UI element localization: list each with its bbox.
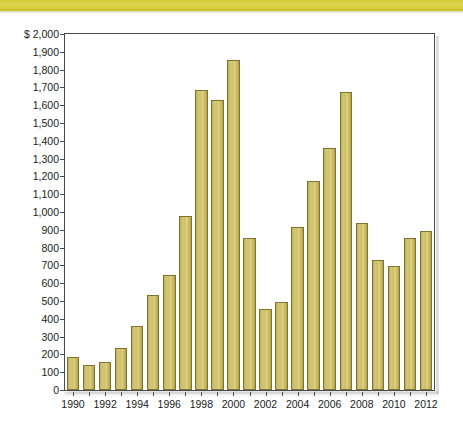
y-axis-tick-mark	[60, 248, 64, 249]
x-axis-tick-label: 2008	[350, 398, 373, 410]
bar	[340, 92, 353, 390]
y-axis-tick-label: 800	[41, 243, 59, 253]
x-axis-tick-mark	[250, 392, 251, 396]
x-axis-tick-label: 2012	[414, 398, 437, 410]
y-axis-labels: $ 2,0001,9001,8001,7001,6001,5001,4001,3…	[0, 14, 59, 414]
bar	[275, 302, 288, 390]
bar	[83, 365, 96, 390]
bar	[307, 181, 320, 390]
x-axis-tick-mark	[217, 392, 218, 396]
bar	[372, 260, 385, 390]
y-axis-tick-mark	[60, 34, 64, 35]
bar	[404, 238, 417, 390]
y-axis-tick-mark	[60, 301, 64, 302]
bar-chart: $ 2,0001,9001,8001,7001,6001,5001,4001,3…	[0, 14, 463, 439]
bar	[115, 348, 128, 390]
x-axis-tick-label: 1992	[93, 398, 116, 410]
y-axis-tick-label: 1,700	[33, 82, 59, 92]
bar	[243, 238, 256, 390]
x-axis-tick-mark	[89, 392, 90, 396]
x-axis-tick-label: 2004	[286, 398, 309, 410]
x-axis-tick-mark	[410, 392, 411, 396]
x-axis-tick-mark	[185, 392, 186, 396]
x-axis-tick-mark	[73, 392, 74, 396]
y-axis-tick-label: 1,400	[33, 136, 59, 146]
bar	[179, 216, 192, 390]
bar	[99, 362, 112, 390]
x-axis-tick-mark	[121, 392, 122, 396]
x-axis-tick-mark	[282, 392, 283, 396]
bar	[195, 90, 208, 390]
x-axis-tick-mark	[169, 392, 170, 396]
bar	[323, 148, 336, 390]
x-axis-tick-mark	[233, 392, 234, 396]
x-axis-tick-label: 1994	[126, 398, 149, 410]
y-axis-tick-label: 200	[41, 349, 59, 359]
y-axis-tick-mark	[60, 70, 64, 71]
y-axis-tick-mark	[60, 390, 64, 391]
bar	[356, 223, 369, 390]
x-axis-tick-label: 1998	[190, 398, 213, 410]
y-axis-tick-label: 0	[53, 385, 59, 395]
y-axis-tick-label: 600	[41, 278, 59, 288]
y-axis-tick-mark	[60, 194, 64, 195]
x-axis-tick-mark	[394, 392, 395, 396]
bar	[259, 309, 272, 390]
y-axis-tick-label: 1,000	[33, 207, 59, 217]
y-axis-tick-label: 400	[41, 314, 59, 324]
x-axis-tick-label: 2000	[222, 398, 245, 410]
y-axis-tick-label: 1,500	[33, 118, 59, 128]
x-axis-tick-label: 1996	[158, 398, 181, 410]
y-axis-tick-mark	[60, 372, 64, 373]
x-axis-tick-label: 2010	[382, 398, 405, 410]
top-banner	[0, 0, 463, 11]
y-axis-tick-label: 1,300	[33, 154, 59, 164]
x-axis-tick-mark	[330, 392, 331, 396]
plot-area-shadow-right	[436, 36, 439, 394]
y-axis-tick-label: 300	[41, 332, 59, 342]
y-axis-tick-mark	[60, 265, 64, 266]
y-axis-tick-label: 700	[41, 260, 59, 270]
bar	[291, 227, 304, 390]
y-axis-tick-mark	[60, 87, 64, 88]
y-axis-tick-label: $ 2,000	[24, 29, 59, 39]
x-axis-tick-mark	[314, 392, 315, 396]
y-axis-tick-mark	[60, 283, 64, 284]
x-axis-tick-mark	[378, 392, 379, 396]
x-axis-tick-label: 1990	[61, 398, 84, 410]
y-axis-tick-label: 1,800	[33, 65, 59, 75]
y-axis-tick-mark	[60, 141, 64, 142]
bar	[131, 326, 144, 390]
x-axis-tick-mark	[153, 392, 154, 396]
x-axis-tick-mark	[137, 392, 138, 396]
bar	[420, 231, 433, 390]
bar	[211, 100, 224, 390]
y-axis-tick-mark	[60, 176, 64, 177]
y-axis-tick-label: 1,900	[33, 47, 59, 57]
x-axis-tick-mark	[346, 392, 347, 396]
y-axis-tick-mark	[60, 354, 64, 355]
bar	[388, 266, 401, 390]
y-axis-tick-label: 1,200	[33, 171, 59, 181]
y-axis-tick-label: 900	[41, 225, 59, 235]
bar	[147, 295, 160, 390]
y-axis-tick-mark	[60, 230, 64, 231]
x-axis-tick-mark	[362, 392, 363, 396]
x-axis-tick-label: 2002	[254, 398, 277, 410]
y-axis-tick-mark	[60, 337, 64, 338]
bar	[227, 60, 240, 390]
x-axis-tick-mark	[266, 392, 267, 396]
y-axis-tick-label: 100	[41, 367, 59, 377]
x-axis-tick-mark	[105, 392, 106, 396]
bars-layer	[65, 34, 434, 390]
x-axis-tick-label: 2006	[318, 398, 341, 410]
y-axis-tick-mark	[60, 105, 64, 106]
y-axis-tick-label: 500	[41, 296, 59, 306]
x-axis-tick-mark	[298, 392, 299, 396]
x-axis-tick-mark	[201, 392, 202, 396]
y-axis-tick-mark	[60, 52, 64, 53]
y-axis-tick-mark	[60, 123, 64, 124]
y-axis-tick-mark	[60, 212, 64, 213]
bar	[163, 275, 176, 390]
y-axis-tick-label: 1,100	[33, 189, 59, 199]
